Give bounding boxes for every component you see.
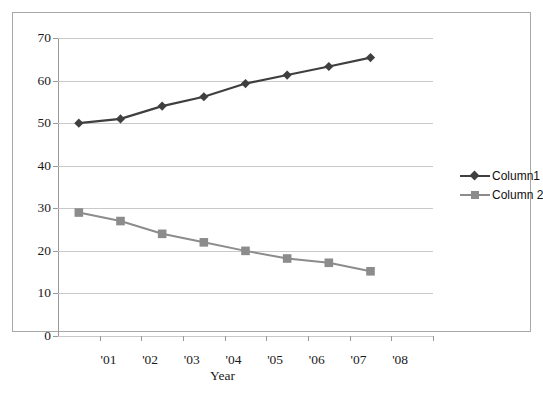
chart-frame: 010203040506070 '01'02'03'04'05'06'07'08… [12, 12, 531, 332]
y-tick-label: 10 [38, 285, 52, 301]
x-tick-label: '03 [184, 352, 200, 368]
legend-item-series-1[interactable]: Column1 [460, 166, 543, 185]
data-point-marker[interactable] [241, 247, 250, 256]
data-point-marker[interactable] [200, 238, 209, 247]
data-point-marker[interactable] [283, 254, 292, 263]
data-point-marker[interactable] [366, 53, 375, 62]
data-point-marker[interactable] [241, 79, 250, 88]
x-tick-label: '04 [226, 352, 242, 368]
x-tick-label: '05 [267, 352, 283, 368]
x-axis-title-text: Year [210, 368, 235, 384]
legend-label-series-2: Column 2 [492, 188, 543, 202]
x-tick-mark [141, 336, 142, 341]
y-tick-label: 40 [38, 158, 52, 174]
data-point-marker[interactable] [158, 102, 167, 111]
data-point-marker[interactable] [116, 217, 125, 226]
legend-item-series-2[interactable]: Column 2 [460, 185, 543, 204]
x-tick-label: '06 [309, 352, 325, 368]
data-point-marker[interactable] [366, 267, 375, 276]
data-point-marker[interactable] [74, 119, 83, 128]
diamond-marker-icon [460, 169, 490, 183]
data-point-marker[interactable] [324, 62, 333, 71]
y-tick-label: 30 [38, 200, 52, 216]
y-tick-label: 20 [38, 243, 52, 259]
data-point-marker[interactable] [116, 114, 125, 123]
y-tick-label: 60 [38, 73, 52, 89]
y-tick-label: 50 [38, 115, 52, 131]
x-tick-mark [308, 336, 309, 341]
gridline [58, 336, 433, 337]
y-tick-label: 0 [44, 328, 51, 344]
x-tick-mark [183, 336, 184, 341]
square-marker-icon [460, 188, 490, 202]
plot-area: 010203040506070 [58, 38, 433, 336]
x-tick-mark [266, 336, 267, 341]
data-point-marker[interactable] [283, 70, 292, 79]
x-tick-label: '02 [142, 352, 158, 368]
data-point-marker[interactable] [158, 230, 167, 239]
data-point-marker[interactable] [75, 208, 84, 217]
line-chart-figure: 010203040506070 '01'02'03'04'05'06'07'08… [0, 0, 543, 405]
x-tick-mark [391, 336, 392, 341]
y-tick-mark [53, 336, 58, 337]
x-tick-mark [433, 336, 434, 341]
x-tick-label: '01 [101, 352, 117, 368]
data-series-group [58, 38, 433, 336]
chart-legend: Column1 Column 2 [460, 166, 543, 204]
x-tick-label: '07 [351, 352, 367, 368]
x-tick-mark [225, 336, 226, 341]
data-point-marker[interactable] [199, 92, 208, 101]
data-point-marker[interactable] [325, 258, 334, 267]
y-tick-label: 70 [38, 30, 52, 46]
x-tick-mark [350, 336, 351, 341]
x-axis-title: Year [0, 368, 543, 384]
x-tick-label: '08 [392, 352, 408, 368]
x-tick-mark [100, 336, 101, 341]
legend-label-series-1: Column1 [492, 169, 540, 183]
